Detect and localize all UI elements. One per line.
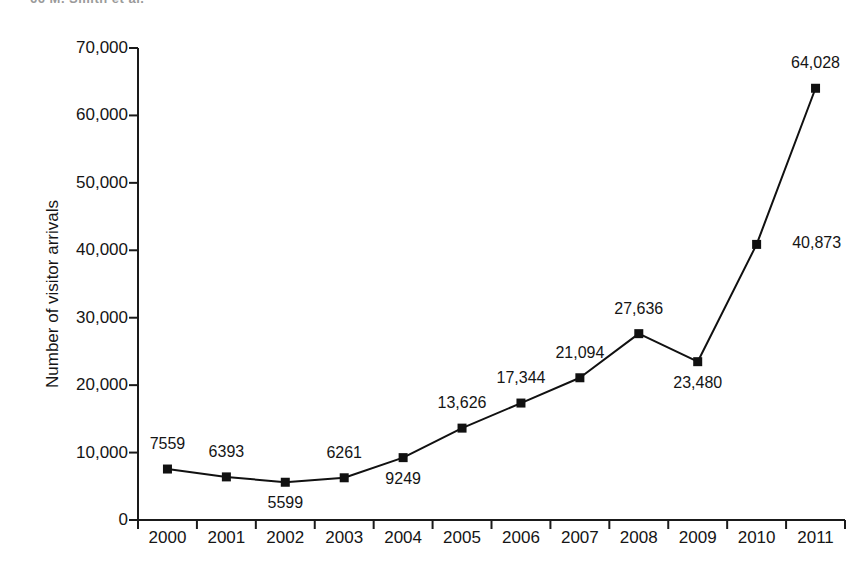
data-marker [516, 399, 525, 408]
x-axis-ticks [138, 520, 845, 529]
data-marker [458, 424, 467, 433]
visitor-arrivals-line-chart: Number of visitor arrivals 010,00020,000… [0, 0, 861, 587]
data-marker [163, 465, 172, 474]
data-line [167, 88, 815, 482]
data-marker [281, 478, 290, 487]
data-marker [222, 472, 231, 481]
y-axis-ticks [129, 48, 138, 520]
data-marker [575, 373, 584, 382]
axes [138, 48, 845, 520]
data-marker [399, 453, 408, 462]
data-marker [752, 240, 761, 249]
data-markers [163, 84, 820, 487]
data-marker [340, 473, 349, 482]
data-marker [811, 84, 820, 93]
data-marker [634, 329, 643, 338]
page-root: 66 M. Smith et al. Number of visitor arr… [0, 0, 861, 587]
data-marker [693, 357, 702, 366]
plot-area [0, 0, 861, 587]
